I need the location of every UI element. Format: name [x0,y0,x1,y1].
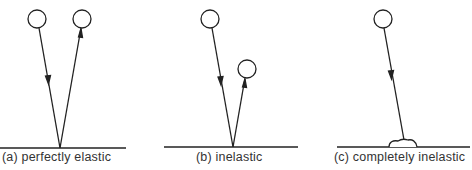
incoming-path [39,28,60,148]
ball-initial [201,10,219,28]
caption-a: (a) perfectly elastic [2,150,111,164]
outgoing-path [233,78,245,147]
caption-c: (c) completely inelastic [334,150,465,164]
outgoing-path [60,28,81,148]
ball-rebound [73,10,91,28]
collision-diagram [0,0,472,170]
arrow-up-icon [79,29,83,38]
squashed-ball [389,139,417,147]
incoming-path [212,28,233,147]
ball-initial [28,10,46,28]
ball-rebound [238,60,256,78]
caption-b: (b) inelastic [196,150,263,164]
incoming-path [384,28,404,140]
panel-b-inelastic [164,10,298,147]
panel-c-completely-inelastic [337,10,470,147]
arrow-down-icon [46,76,51,85]
arrow-up-icon [243,79,247,88]
ball-initial [374,10,392,28]
panel-a-perfectly-elastic [0,10,126,148]
